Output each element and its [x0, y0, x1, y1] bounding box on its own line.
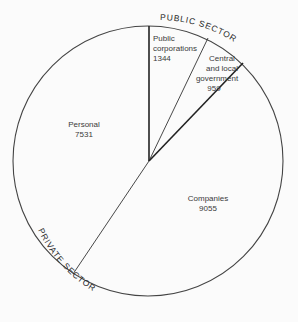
gov-label-1: Central: [209, 54, 235, 63]
gov-value: 959: [207, 84, 221, 93]
gov-label-2: and local: [206, 64, 238, 73]
public-corp-label-2: corporations: [153, 44, 197, 53]
personal-value: 7531: [75, 130, 93, 139]
public-corp-label-1: Public: [153, 34, 175, 43]
divider-companies-personal: [73, 161, 149, 274]
public-corp-value: 1344: [153, 54, 171, 63]
companies-value: 9055: [199, 204, 217, 213]
personal-label: Personal: [68, 120, 100, 129]
companies-label: Companies: [188, 194, 228, 203]
gov-label-3: government: [196, 74, 239, 83]
private-sector-label: PRIVATE SECTOR: [36, 226, 98, 293]
pie-chart: PUBLIC SECTOR PRIVATE SECTOR Public corp…: [0, 0, 298, 322]
